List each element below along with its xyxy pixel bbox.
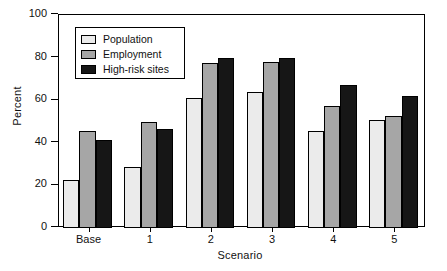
- x-axis-tick-label: Base: [59, 233, 119, 245]
- bar: [308, 131, 324, 228]
- bar: [218, 58, 234, 228]
- bar: [186, 98, 202, 228]
- bar: [63, 180, 79, 228]
- bar: [141, 122, 157, 229]
- chart-legend: Population Employment High-risk sites: [75, 27, 185, 79]
- y-axis-tick: [51, 13, 58, 14]
- bar: [96, 140, 112, 228]
- bar: [202, 63, 218, 228]
- legend-swatch-employment: [81, 50, 96, 59]
- bar: [157, 129, 173, 228]
- legend-label-employment: Employment: [103, 49, 161, 60]
- bar: [385, 116, 401, 228]
- x-axis-tick-label: 5: [364, 233, 424, 245]
- x-axis-tick-label: 2: [181, 233, 241, 245]
- bar: [324, 106, 340, 228]
- legend-label-high-risk-sites: High-risk sites: [103, 64, 169, 75]
- y-axis-tick: [51, 184, 58, 185]
- y-axis-tick-label: 20: [14, 177, 47, 189]
- x-axis-tick-label: 1: [120, 233, 180, 245]
- y-axis-tick-label: 0: [14, 220, 47, 232]
- bar: [247, 92, 263, 228]
- bar-chart-figure: Percent Scenario 020406080100 Base12345 …: [0, 0, 447, 271]
- bar: [340, 85, 356, 228]
- y-axis-tick-label: 60: [14, 92, 47, 104]
- legend-item-high-risk-sites: High-risk sites: [81, 62, 179, 77]
- legend-item-population: Population: [81, 32, 179, 47]
- bar: [402, 96, 418, 228]
- y-axis-tick: [51, 226, 58, 227]
- y-axis-tick: [51, 99, 58, 100]
- bar: [79, 131, 95, 228]
- bar: [263, 62, 279, 228]
- x-axis-title: Scenario: [55, 249, 425, 261]
- x-axis-tick-label: 4: [303, 233, 363, 245]
- bar: [279, 58, 295, 228]
- x-axis-tick-label: 3: [242, 233, 302, 245]
- bar: [369, 120, 385, 228]
- y-axis-tick: [51, 56, 58, 57]
- legend-swatch-high-risk-sites: [81, 65, 96, 74]
- y-axis-tick: [51, 141, 58, 142]
- legend-swatch-population: [81, 35, 96, 44]
- y-axis-tick-label: 80: [14, 50, 47, 62]
- y-axis-tick-label: 100: [14, 7, 47, 19]
- legend-item-employment: Employment: [81, 47, 179, 62]
- y-axis-tick-label: 40: [14, 135, 47, 147]
- legend-label-population: Population: [103, 34, 153, 45]
- bar: [124, 167, 140, 228]
